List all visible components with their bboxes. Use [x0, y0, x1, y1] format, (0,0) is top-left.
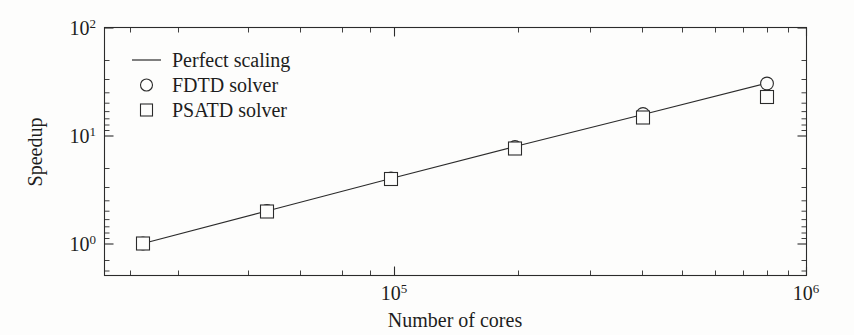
legend-entry-perfect-scaling: Perfect scaling — [132, 49, 290, 72]
x-tick-label-1e5: 105 — [381, 281, 408, 304]
x-axis-tick-labels: 105 106 — [381, 281, 820, 304]
y-tick-label-1e1: 101 — [70, 124, 97, 147]
x-axis-ticks-bottom — [131, 267, 807, 276]
y-axis-minor-ticks — [105, 61, 110, 272]
x-tick-label-1e6: 106 — [793, 281, 820, 304]
legend-label-fdtd: FDTD solver — [172, 74, 278, 96]
x-axis-title: Number of cores — [388, 309, 523, 331]
legend-entry-fdtd: FDTD solver — [141, 74, 279, 96]
y-axis-right-ticks — [798, 28, 807, 271]
legend-square-marker — [141, 104, 153, 116]
x-axis-ticks-top — [131, 28, 807, 37]
y-tick-label-1e2: 102 — [70, 16, 97, 39]
scaling-plot: Perfect scaling FDTD solver PSATD solver… — [0, 0, 854, 335]
legend: Perfect scaling FDTD solver PSATD solver — [132, 49, 290, 121]
legend-entry-psatd: PSATD solver — [141, 99, 288, 121]
y-axis-title: Speedup — [24, 118, 47, 187]
y-axis-tick-labels: 102 101 100 — [70, 16, 97, 255]
y-tick-label-1e0: 100 — [70, 232, 97, 255]
legend-label-psatd: PSATD solver — [172, 99, 287, 121]
figure-container: Perfect scaling FDTD solver PSATD solver… — [0, 0, 854, 335]
legend-circle-marker — [141, 79, 153, 91]
legend-label-perfect-scaling: Perfect scaling — [172, 49, 290, 72]
